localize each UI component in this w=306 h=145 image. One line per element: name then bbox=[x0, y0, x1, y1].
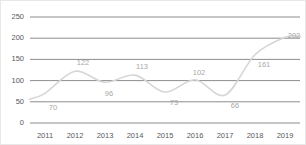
gridlines-group bbox=[30, 17, 300, 123]
data-point-label: 161 bbox=[258, 60, 271, 69]
x-axis-tick-label: 2017 bbox=[217, 131, 234, 140]
data-point-label: 73 bbox=[170, 98, 178, 107]
data-point-labels: 70122961137310266161202 bbox=[49, 31, 300, 112]
y-axis-tick-label: 250 bbox=[11, 12, 24, 21]
x-axis-tick-label: 2014 bbox=[127, 131, 144, 140]
data-point-label: 96 bbox=[105, 89, 113, 98]
y-axis-tick-label: 0 bbox=[20, 118, 24, 127]
y-axis-tick-label: 200 bbox=[11, 33, 24, 42]
x-axis-tick-label: 2011 bbox=[37, 131, 53, 140]
x-axis-tick-label: 2013 bbox=[97, 131, 114, 140]
chart-canvas: 050100150200250 201120122013201420152016… bbox=[1, 1, 306, 145]
y-axis-tick-label: 150 bbox=[11, 54, 24, 63]
x-axis-tick-label: 2016 bbox=[187, 131, 204, 140]
data-point-label: 66 bbox=[231, 101, 239, 110]
data-point-label: 113 bbox=[136, 62, 148, 71]
data-point-label: 122 bbox=[77, 58, 90, 67]
line-chart-figure: 050100150200250 201120122013201420152016… bbox=[0, 0, 306, 145]
data-point-label: 102 bbox=[193, 68, 206, 77]
x-axis-tick-label: 2012 bbox=[67, 131, 84, 140]
x-axis-tick-label: 2018 bbox=[247, 131, 264, 140]
x-axis-tick-labels: 201120122013201420152016201720182019 bbox=[37, 131, 293, 140]
y-axis-tick-label: 100 bbox=[11, 76, 24, 85]
data-point-label: 70 bbox=[49, 103, 57, 112]
x-axis-tick-label: 2019 bbox=[277, 131, 294, 140]
x-axis-tick-label: 2015 bbox=[157, 131, 174, 140]
y-axis-tick-labels: 050100150200250 bbox=[11, 12, 24, 127]
y-axis-tick-label: 50 bbox=[16, 97, 24, 106]
data-point-label: 202 bbox=[288, 31, 301, 40]
